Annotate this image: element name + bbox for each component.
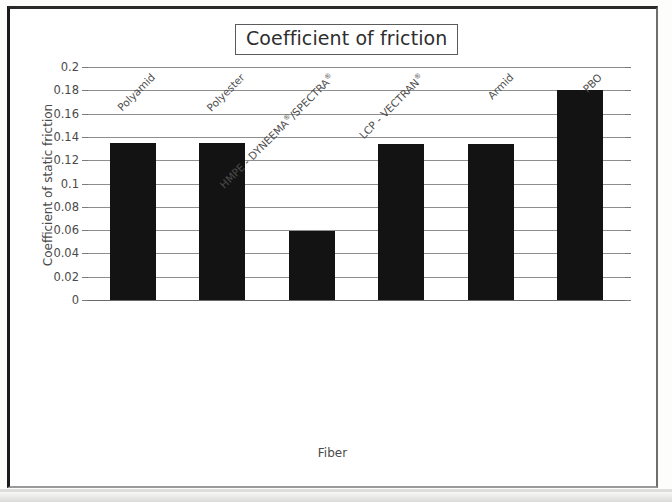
y-axis-tick-right <box>625 137 631 138</box>
y-axis-tick-label: 0.04 <box>53 246 79 260</box>
y-axis-tick <box>82 300 88 301</box>
y-axis-tick-right <box>625 253 631 254</box>
chart-title: Coefficient of friction <box>246 28 447 49</box>
y-axis-tick-label: 0.08 <box>53 200 79 214</box>
bar <box>289 231 335 300</box>
scan-artifact-gradient <box>0 490 672 502</box>
y-axis-tick-right <box>625 207 631 208</box>
y-axis-tick-right <box>625 300 631 301</box>
y-axis-tick-label: 0.06 <box>53 223 79 237</box>
bar <box>557 90 603 300</box>
bar <box>378 144 424 300</box>
y-axis-tick-label: 0.02 <box>53 270 79 284</box>
bar-slot <box>536 67 626 300</box>
y-axis-tick-label: 0.12 <box>53 153 79 167</box>
y-axis-tick-label: 0.1 <box>61 177 79 191</box>
chart-title-box: Coefficient of friction <box>235 24 458 55</box>
y-axis-tick-label: 0.14 <box>53 130 79 144</box>
scanned-page: Coefficient of friction Coefficient of s… <box>0 0 672 502</box>
gridline <box>88 300 625 301</box>
y-axis-tick-label: 0.16 <box>53 107 79 121</box>
bar <box>110 143 156 300</box>
y-axis-tick-right <box>625 114 631 115</box>
bar-series <box>88 67 625 300</box>
bar <box>468 144 514 300</box>
x-axis-title: Fiber <box>7 446 658 460</box>
plot-area: 0.20.180.160.140.120.10.080.060.040.020 … <box>88 67 625 300</box>
y-axis-tick-label: 0 <box>72 293 79 307</box>
y-axis-tick-right <box>625 277 631 278</box>
y-axis-tick-right <box>625 90 631 91</box>
y-axis-tick-label: 0.2 <box>61 60 79 74</box>
y-axis-tick-right <box>625 67 631 68</box>
y-axis-tick-right <box>625 184 631 185</box>
y-axis-tick-right <box>625 230 631 231</box>
y-axis-tick-right <box>625 160 631 161</box>
bar-chart: Coefficient of friction Coefficient of s… <box>7 6 658 488</box>
y-axis-tick-label: 0.18 <box>53 83 79 97</box>
bar-slot <box>446 67 536 300</box>
